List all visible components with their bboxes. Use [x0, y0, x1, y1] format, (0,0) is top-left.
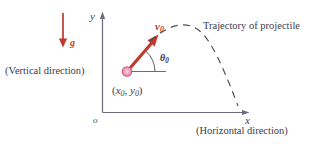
projectile-motion-figure: y x o g v0 θ0 (x0, y0) Trajectory of pro… [0, 0, 319, 144]
angle-arc-icon [146, 51, 156, 72]
velocity-label: v0 [155, 21, 164, 34]
angle-subscript: 0 [165, 57, 169, 65]
start-point-label: (x0, y0) [112, 85, 143, 98]
y-axis-label: y [90, 11, 95, 22]
vertical-axis-arrowhead [100, 12, 105, 20]
horizontal-direction-caption: (Horizontal direction) [196, 126, 288, 137]
trajectory-label: Trajectory of projectile [203, 21, 300, 32]
gravity-arrow-head [59, 39, 67, 48]
vertical-direction-caption: (Vertical direction) [5, 66, 85, 77]
launch-point-inner [125, 70, 128, 73]
angle-label: θ0 [160, 53, 169, 65]
origin-label: o [93, 116, 98, 125]
start-point-close-paren: ) [139, 84, 143, 96]
launch-point-dot-icon [122, 67, 131, 76]
velocity-arrow-icon [128, 35, 159, 72]
gravity-arrow-icon [59, 13, 67, 48]
dashed-parabola-icon [150, 25, 238, 106]
gravity-label: g [70, 38, 75, 48]
velocity-subscript: 0 [160, 25, 164, 34]
velocity-arrow-shaft [128, 42, 154, 72]
